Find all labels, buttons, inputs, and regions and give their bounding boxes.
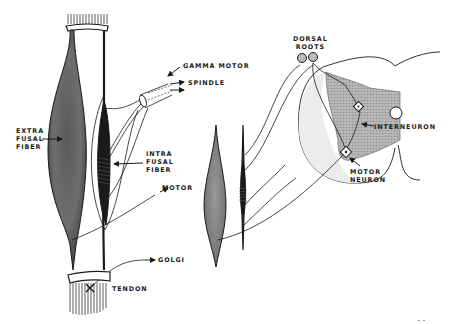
efferent-fiber-2 [244, 178, 296, 225]
spinal-circuit [204, 52, 440, 267]
dorsal-root-ganglion-1 [298, 54, 307, 63]
bottom-tendon [68, 271, 110, 315]
label-spindle: SPINDLE [188, 79, 225, 87]
nerve-bundle [138, 84, 172, 108]
label-tendon: TENDON [112, 285, 148, 293]
small-extrafusal-fiber [204, 125, 226, 267]
motor-neuron-pointer [350, 158, 360, 166]
dorsal-root-ganglion-2 [309, 53, 318, 62]
gamma-motor-pointer [168, 67, 180, 76]
label-motor-neuron: MOTOR NEURON [350, 168, 386, 184]
label-interneuron: INTERNEURON [374, 123, 436, 131]
label-gamma-motor: GAMMA MOTOR [183, 62, 250, 70]
label-extrafusal-fiber: EXTRA FUSAL FIBER [16, 127, 44, 151]
extrafusal-fiber [48, 30, 86, 270]
spindle-pointer-1 [170, 82, 184, 84]
label-dorsal-roots: DORSAL ROOTS [293, 35, 328, 51]
gray-matter [326, 72, 400, 160]
label-intrafusal-fiber: INTRA FUSAL FIBER [146, 150, 174, 174]
page-mark [418, 320, 425, 321]
muscle-reflex-diagram [0, 0, 453, 324]
golgi-organ-mark [86, 284, 94, 292]
label-golgi: GOLGI [158, 256, 185, 264]
central-canal [390, 107, 402, 119]
intrafusal-pointer [114, 163, 143, 164]
top-tendon [66, 14, 108, 31]
label-motor: MOTOR [162, 184, 193, 192]
motor-nerve-left [72, 195, 155, 240]
